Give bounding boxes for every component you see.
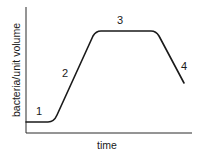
plot-area <box>0 0 208 160</box>
y-axis-label: bacteria/unit volume <box>10 23 22 117</box>
phase-label-1: 1 <box>36 106 42 117</box>
phase-label-4: 4 <box>181 61 187 72</box>
growth-curve-diagram: bacteria/unit volume time 1 2 3 4 <box>0 0 208 160</box>
x-axis-label: time <box>97 139 117 151</box>
phase-label-3: 3 <box>117 15 123 26</box>
phase-label-2: 2 <box>62 68 68 79</box>
growth-curve-line <box>26 31 184 122</box>
